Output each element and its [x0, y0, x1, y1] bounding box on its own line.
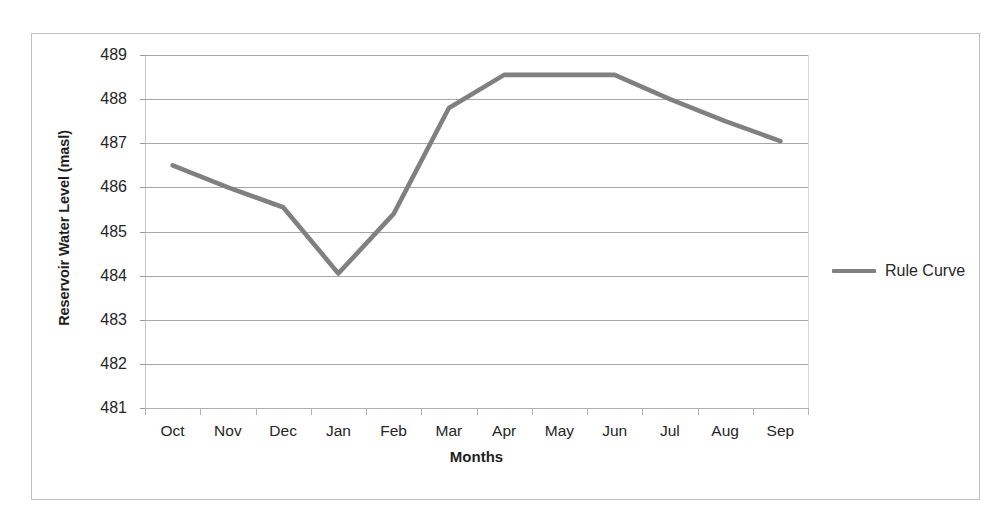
x-tick-label-jun: Jun — [585, 423, 645, 439]
x-tick-label-may: May — [529, 423, 589, 439]
x-tick-label-nov: Nov — [198, 423, 258, 439]
x-tick-mark-0 — [145, 408, 146, 415]
legend-label-rule-curve: Rule Curve — [885, 262, 965, 280]
x-axis-title: Months — [145, 448, 808, 465]
x-tick-mark-1 — [200, 408, 201, 415]
chart-legend: Rule Curve — [832, 262, 965, 280]
series-rule-curve — [145, 55, 808, 408]
x-tick-label-mar: Mar — [419, 423, 479, 439]
x-tick-mark-12 — [808, 408, 809, 415]
x-tick-label-apr: Apr — [474, 423, 534, 439]
chart-figure: Reservoir Water Level (masl) 48948848748… — [0, 0, 1007, 531]
y-tick-label-483: 483 — [67, 312, 127, 328]
legend-swatch-rule-curve — [832, 269, 876, 273]
x-tick-label-aug: Aug — [695, 423, 755, 439]
y-tick-label-488: 488 — [67, 91, 127, 107]
x-tick-mark-7 — [532, 408, 533, 415]
plot-right-edge — [808, 55, 809, 408]
y-tick-label-486: 486 — [67, 179, 127, 195]
rule-curve-line — [173, 75, 781, 274]
y-tick-label-481: 481 — [67, 400, 127, 416]
x-tick-mark-5 — [421, 408, 422, 415]
x-tick-mark-6 — [477, 408, 478, 415]
x-tick-mark-9 — [642, 408, 643, 415]
x-tick-mark-11 — [753, 408, 754, 415]
y-tick-label-484: 484 — [67, 268, 127, 284]
x-tick-mark-3 — [311, 408, 312, 415]
plot-area: 489488487486485484483482481 OctNovDecJan… — [145, 55, 808, 408]
x-tick-label-jul: Jul — [640, 423, 700, 439]
x-tick-label-dec: Dec — [253, 423, 313, 439]
x-tick-mark-4 — [366, 408, 367, 415]
y-tick-label-487: 487 — [67, 135, 127, 151]
y-tick-label-482: 482 — [67, 356, 127, 372]
x-tick-label-feb: Feb — [364, 423, 424, 439]
x-tick-mark-10 — [698, 408, 699, 415]
x-tick-label-jan: Jan — [308, 423, 368, 439]
x-tick-mark-2 — [256, 408, 257, 415]
x-tick-label-sep: Sep — [750, 423, 810, 439]
x-tick-label-oct: Oct — [143, 423, 203, 439]
y-tick-label-485: 485 — [67, 224, 127, 240]
chart-border-frame: Reservoir Water Level (masl) 48948848748… — [31, 33, 980, 500]
x-tick-mark-8 — [587, 408, 588, 415]
y-tick-label-489: 489 — [67, 47, 127, 63]
